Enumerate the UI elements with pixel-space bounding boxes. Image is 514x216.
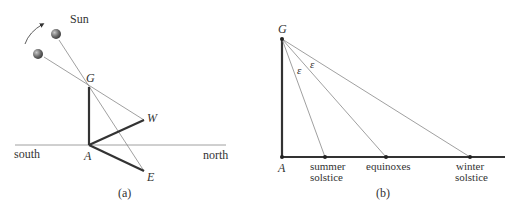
epsilon-label-2: ε: [310, 58, 315, 70]
ray-summer: [282, 39, 325, 157]
caption-b: (b): [376, 186, 390, 200]
sun-high: [51, 29, 61, 39]
north-label: north: [203, 148, 228, 162]
ray-equinox: [282, 39, 386, 157]
point-a-label: A: [83, 149, 92, 163]
equinoxes-dot: [384, 155, 388, 159]
shadow-winter: [89, 120, 144, 145]
summer-solstice-dot: [323, 155, 327, 159]
panel-b: G A ε ε summer solstice equinoxes winter…: [277, 22, 505, 200]
point-g-dot: [280, 37, 284, 41]
sun-low: [33, 49, 43, 59]
point-a-label-b: A: [277, 161, 286, 175]
panel-a: Sun G W A E south north (a): [14, 12, 228, 200]
gnomon-diagram: Sun G W A E south north (a) G A ε ε summ…: [0, 0, 514, 216]
epsilon-label-1: ε: [297, 64, 302, 76]
point-w-label: W: [147, 111, 158, 125]
winter-label-2: solstice: [455, 171, 488, 183]
south-label: south: [14, 147, 40, 161]
point-g-label: G: [86, 71, 95, 85]
sun-label: Sun: [70, 12, 89, 26]
point-a-dot: [280, 155, 284, 159]
point-g-label-b: G: [278, 22, 287, 36]
caption-a: (a): [118, 186, 131, 200]
point-e-label: E: [146, 170, 155, 184]
sun-ray-winter: [44, 57, 144, 120]
ray-winter: [282, 39, 470, 157]
summer-label-2: solstice: [310, 171, 343, 183]
equinoxes-label: equinoxes: [366, 160, 411, 172]
winter-solstice-dot: [468, 155, 472, 159]
sun-motion-arrow-icon: [25, 24, 43, 44]
